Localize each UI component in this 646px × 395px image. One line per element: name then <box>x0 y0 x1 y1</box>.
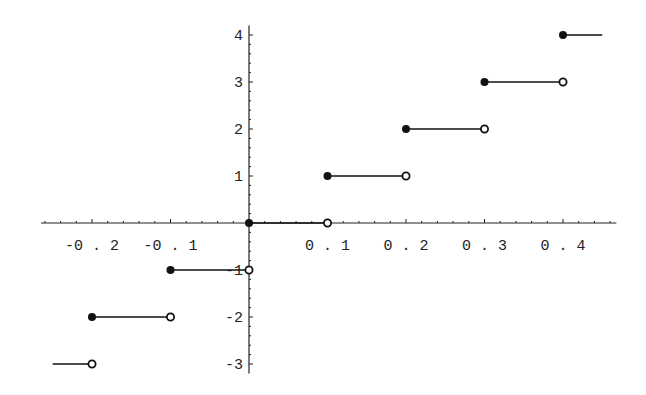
x-tick-label: -0 . 1 <box>143 238 197 255</box>
x-tick-label: 0 . 3 <box>462 238 507 255</box>
open-endpoint <box>481 125 488 132</box>
open-endpoint <box>167 313 174 320</box>
closed-endpoint <box>559 31 567 39</box>
x-tick-label: 0 . 1 <box>305 238 350 255</box>
closed-endpoint <box>245 219 253 227</box>
step-function-chart: -0 . 2-0 . 10 . 10 . 20 . 30 . 4-3-2-112… <box>0 0 646 395</box>
x-tick-label: 0 . 4 <box>540 238 585 255</box>
closed-endpoint <box>481 78 489 86</box>
closed-endpoint <box>88 313 96 321</box>
axes <box>41 26 616 374</box>
y-tick-label: 3 <box>234 75 243 92</box>
open-endpoint <box>559 78 566 85</box>
open-endpoint <box>402 172 409 179</box>
tick-labels: -0 . 2-0 . 10 . 10 . 20 . 30 . 4-3-2-112… <box>65 28 586 374</box>
y-tick-label: -1 <box>225 263 243 280</box>
axis-ticks <box>45 35 610 364</box>
step-segments <box>53 31 603 368</box>
y-tick-label: 1 <box>234 169 243 186</box>
y-tick-label: -3 <box>225 357 243 374</box>
closed-endpoint <box>324 172 332 180</box>
y-tick-label: 2 <box>234 122 243 139</box>
open-endpoint <box>324 219 331 226</box>
x-tick-label: -0 . 2 <box>65 238 119 255</box>
x-tick-label: 0 . 2 <box>383 238 428 255</box>
y-tick-label: 4 <box>234 28 243 45</box>
open-endpoint <box>245 266 252 273</box>
closed-endpoint <box>402 125 410 133</box>
closed-endpoint <box>167 266 175 274</box>
y-tick-label: -2 <box>225 310 243 327</box>
open-endpoint <box>88 360 95 367</box>
